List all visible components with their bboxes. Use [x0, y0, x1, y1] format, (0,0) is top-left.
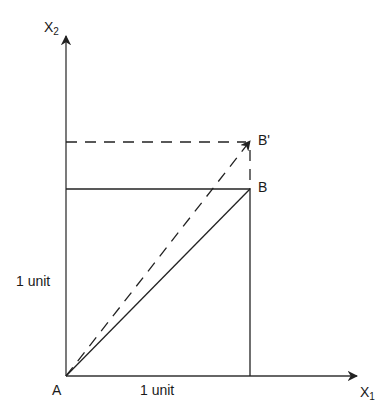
vector-ab-prime: [66, 141, 250, 376]
diagram-canvas: [0, 0, 385, 411]
vector-ab: [66, 189, 250, 376]
point-b-label: B: [258, 180, 267, 194]
y-axis-label-subscript: 2: [53, 26, 59, 37]
y-axis-label: X2: [44, 20, 59, 37]
x-axis-label: X1: [360, 385, 375, 402]
horizontal-unit-label: 1 unit: [140, 383, 174, 397]
vertical-unit-label: 1 unit: [16, 274, 50, 288]
y-axis-label-text: X: [44, 19, 53, 35]
x-axis-label-text: X: [360, 384, 369, 400]
point-b-prime-label: B': [258, 133, 270, 147]
point-a-label: A: [52, 383, 61, 397]
x-axis-label-subscript: 1: [369, 391, 375, 402]
